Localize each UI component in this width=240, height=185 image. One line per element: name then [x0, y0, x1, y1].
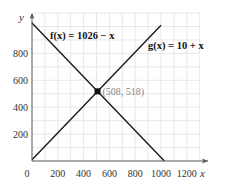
y-tick-label: 600 — [13, 75, 28, 86]
f-function-label: f(x) = 1026 − x — [50, 30, 115, 42]
x-axis-label: x — [199, 167, 205, 179]
chart: 020040060080010001200200400600800 x y f(… — [0, 0, 240, 185]
x-tick-label: 1200 — [177, 168, 197, 179]
x-tick-label: 800 — [128, 168, 143, 179]
intersection-label: (508, 518) — [103, 86, 145, 98]
y-axis-label: y — [18, 11, 24, 23]
y-tick-label: 200 — [13, 129, 28, 140]
y-tick-label: 400 — [13, 102, 28, 113]
x-tick-label: 600 — [102, 168, 117, 179]
intersection-marker — [95, 88, 101, 94]
x-tick-label: 200 — [50, 168, 65, 179]
x-tick-label: 400 — [76, 168, 91, 179]
x-tick-label: 1000 — [151, 168, 171, 179]
y-tick-label: 800 — [13, 48, 28, 59]
x-tick-label: 0 — [25, 168, 30, 179]
g-function-label: g(x) = 10 + x — [148, 40, 204, 52]
tick-labels: 020040060080010001200200400600800 — [13, 48, 197, 179]
